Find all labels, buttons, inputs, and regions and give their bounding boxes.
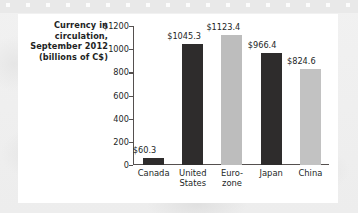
bar-slot: $966.4	[252, 26, 291, 165]
y-tick-mark	[129, 142, 133, 143]
y-tick-mark	[129, 26, 133, 27]
y-tick-label: 200	[95, 138, 129, 146]
chart-card: Currency in circulation, September 2012 …	[18, 14, 338, 203]
bar-slot: $1045.3	[173, 26, 212, 165]
bar[interactable]	[182, 44, 203, 165]
y-tick-label: 1000	[95, 45, 129, 53]
bar-value-label: $966.4	[246, 40, 279, 50]
y-tick-mark	[129, 96, 133, 97]
y-tick-mark	[129, 49, 133, 50]
bar[interactable]	[300, 69, 321, 165]
y-tick-mark	[129, 72, 133, 73]
bar-slot: $824.6	[291, 26, 330, 165]
bar-series: $60.3$1045.3$1123.4$966.4$824.6	[134, 26, 330, 165]
x-category-label-line: China	[287, 168, 333, 178]
bar[interactable]	[221, 35, 242, 165]
bar[interactable]	[261, 53, 282, 165]
x-category-label: China	[287, 168, 333, 178]
y-tick-label: 800	[95, 68, 129, 76]
y-tick-label: 0	[95, 161, 129, 169]
bar-value-label: $824.6	[285, 56, 318, 66]
scalloped-dot-strip	[0, 0, 358, 13]
bar-value-label: $60.3	[128, 145, 161, 155]
bar-slot: $60.3	[134, 26, 173, 165]
y-tick-label: 600	[95, 92, 129, 100]
y-tick-mark	[129, 119, 133, 120]
bar-chart: Currency in circulation, September 2012 …	[18, 14, 338, 203]
bar-value-label: $1123.4	[206, 22, 239, 32]
y-tick-label: $1200	[95, 22, 129, 30]
x-category-label-line: zone	[209, 178, 255, 188]
y-tick-label: 400	[95, 115, 129, 123]
bar[interactable]	[143, 158, 164, 165]
y-axis-tick-labels: $120010008006004002000	[93, 14, 129, 203]
y-tick-mark	[129, 165, 133, 166]
bar-value-label: $1045.3	[167, 31, 200, 41]
